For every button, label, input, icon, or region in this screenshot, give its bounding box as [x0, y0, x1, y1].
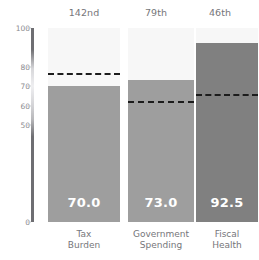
y-tick-mark-70	[27, 86, 31, 87]
chart-container: 142nd 79th 46th 100 80 70 60 50 0 70.0	[0, 0, 259, 260]
bar-value-tax-burden: 70.0	[48, 196, 120, 210]
y-tick-mark-80	[27, 66, 31, 67]
bar-group-fiscal-health[interactable]: 92.5	[196, 28, 258, 222]
y-tick-mark-50	[27, 125, 31, 126]
category-label-government-spending: Government Spending	[120, 229, 202, 250]
category-label-tax-burden: Tax Burden	[44, 229, 124, 250]
category-label-fiscal-health: Fiscal Health	[192, 229, 259, 250]
plot-area: 100 80 70 60 50 0 70.0 73.0	[0, 0, 259, 260]
bar-value-government-spending: 73.0	[128, 196, 194, 210]
y-axis-gradient-spine	[31, 28, 34, 222]
reference-line-fiscal-health	[196, 94, 258, 96]
reference-line-government-spending	[128, 101, 194, 103]
category-label-fiscal-health-line1: Fiscal	[215, 229, 240, 239]
category-label-government-spending-line1: Government	[133, 229, 189, 239]
category-label-tax-burden-line2: Burden	[44, 240, 124, 251]
bar-group-tax-burden[interactable]: 70.0	[48, 28, 120, 222]
bar-group-government-spending[interactable]: 73.0	[128, 28, 194, 222]
category-label-tax-burden-line1: Tax	[77, 229, 92, 239]
category-label-fiscal-health-line2: Health	[192, 240, 259, 251]
y-tick-mark-100	[27, 28, 31, 29]
category-label-government-spending-line2: Spending	[120, 240, 202, 251]
reference-line-tax-burden	[48, 73, 120, 75]
bar-value-fiscal-health: 92.5	[196, 196, 258, 210]
y-tick-mark-0	[27, 222, 31, 223]
y-tick-mark-60	[27, 105, 31, 106]
